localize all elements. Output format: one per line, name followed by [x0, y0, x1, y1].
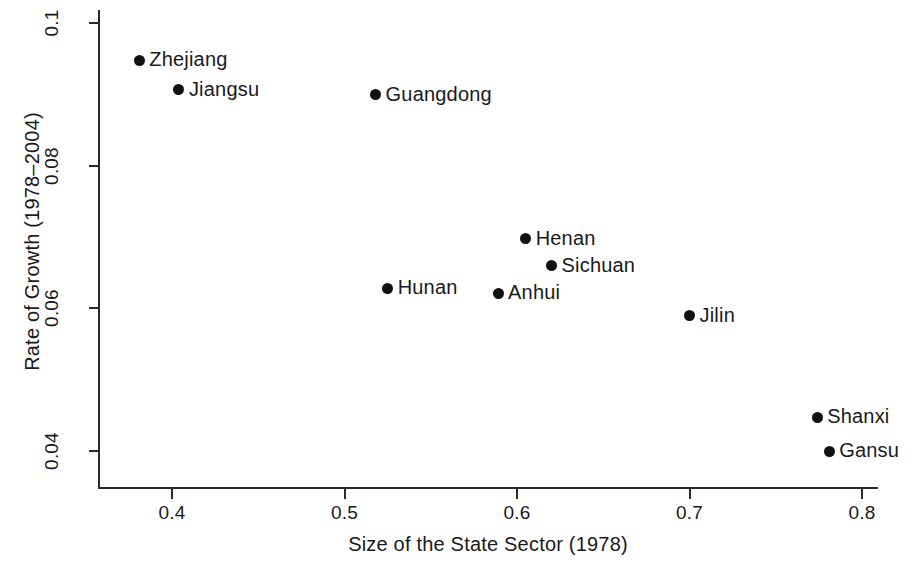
- data-point-marker: [546, 260, 557, 271]
- y-tick-mark: [89, 450, 99, 452]
- data-point-marker: [382, 283, 393, 294]
- data-point-marker: [134, 55, 145, 66]
- y-tick-label-text: 0.04: [41, 421, 63, 481]
- data-point-marker: [520, 233, 531, 244]
- y-tick-mark: [89, 22, 99, 24]
- y-tick-label-text: 0.08: [41, 136, 63, 196]
- data-point-label: Jiangsu: [189, 78, 259, 101]
- data-point-label: Gansu: [839, 439, 899, 462]
- x-tick-mark: [516, 489, 518, 499]
- x-tick-mark: [344, 489, 346, 499]
- data-point-marker: [684, 310, 695, 321]
- y-tick-mark: [89, 165, 99, 167]
- y-tick-label-text: 0.1: [41, 0, 63, 53]
- data-point-label: Guangdong: [386, 83, 492, 106]
- x-tick-label: 0.7: [650, 502, 730, 524]
- data-point-marker: [493, 288, 504, 299]
- y-axis-title-text: Rate of Growth (1978–2004): [21, 2, 44, 482]
- x-tick-mark: [689, 489, 691, 499]
- x-tick-label: 0.4: [132, 502, 212, 524]
- data-point-marker: [370, 89, 381, 100]
- data-point-marker: [824, 446, 835, 457]
- data-point-label: Sichuan: [562, 254, 636, 277]
- x-axis-line: [98, 487, 878, 489]
- x-axis-title: Size of the State Sector (1978): [98, 533, 878, 556]
- y-tick-label-text: 0.06: [41, 278, 63, 338]
- x-tick-label: 0.8: [822, 502, 902, 524]
- data-point-marker: [812, 412, 823, 423]
- data-point-label: Shanxi: [827, 405, 889, 428]
- data-point-marker: [173, 84, 184, 95]
- x-tick-mark: [861, 489, 863, 499]
- data-point-label: Anhui: [508, 281, 560, 304]
- x-tick-label: 0.6: [477, 502, 557, 524]
- data-point-label: Henan: [536, 227, 596, 250]
- x-tick-mark: [171, 489, 173, 499]
- data-point-label: Hunan: [398, 276, 458, 299]
- scatter-plot-figure: 0.040.060.080.1 0.40.50.60.70.8 Rate of …: [0, 0, 912, 570]
- y-tick-mark: [89, 307, 99, 309]
- y-axis-title: Rate of Growth (1978–2004): [0, 230, 272, 258]
- data-point-label: Jilin: [700, 304, 735, 327]
- x-tick-label: 0.5: [305, 502, 385, 524]
- data-point-label: Zhejiang: [149, 48, 227, 71]
